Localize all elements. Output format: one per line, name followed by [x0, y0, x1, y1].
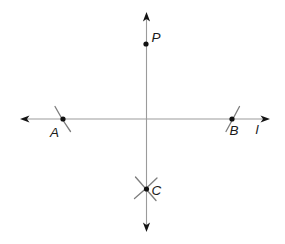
point-p-dot — [143, 41, 148, 46]
point-a-label: A — [49, 125, 59, 140]
line-l-label: l — [256, 122, 260, 137]
point-a-dot — [60, 116, 65, 121]
point-c-dot — [144, 186, 149, 191]
point-b-label: B — [230, 123, 239, 138]
point-p-label: P — [152, 30, 161, 45]
geometry-construction-diagram: P A B l C — [0, 0, 285, 244]
point-c-label: C — [152, 183, 162, 198]
point-b-dot — [229, 116, 234, 121]
construction-canvas: P A B l C — [0, 0, 285, 244]
